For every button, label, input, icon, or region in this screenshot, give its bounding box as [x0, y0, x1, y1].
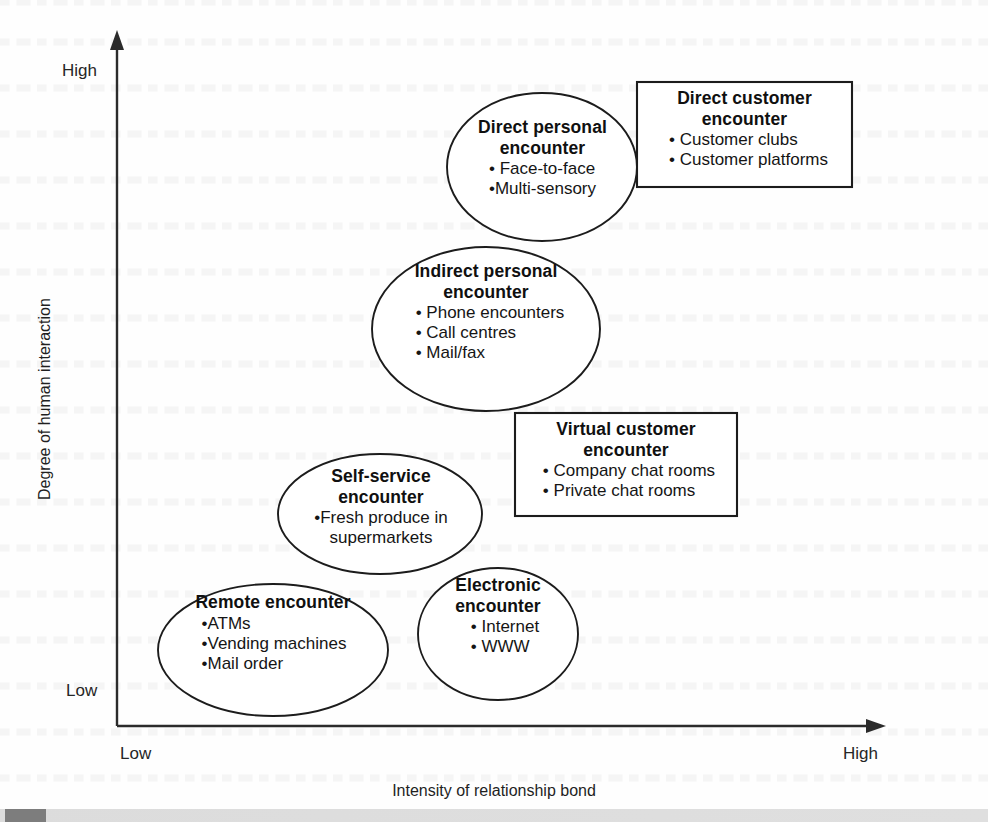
- list-item: • Private chat rooms: [543, 481, 715, 501]
- list-item: • Face-to-face: [489, 159, 596, 179]
- y-axis-title: Degree of human interaction: [36, 298, 54, 500]
- list-item-text: Private chat rooms: [554, 481, 696, 500]
- node-items: •Fresh produce in supermarkets: [288, 508, 474, 548]
- list-item: • Mail/fax: [416, 343, 565, 363]
- list-item: •Fresh produce in supermarkets: [288, 508, 474, 548]
- node-items: • Face-to-face •Multi-sensory: [489, 159, 596, 199]
- node-title: Virtual customer encounter: [519, 419, 733, 460]
- list-item: •Mail order: [202, 654, 347, 674]
- y-axis-arrowhead: [110, 30, 124, 50]
- title-line: Direct customer: [677, 88, 812, 108]
- title-line: Self-service: [331, 466, 430, 486]
- title-line: Remote encounter: [195, 592, 350, 612]
- title-line: Virtual customer: [556, 419, 695, 439]
- title-line: Indirect personal: [415, 261, 558, 281]
- node-title: Self-service encounter: [288, 466, 474, 507]
- figure-canvas: Direct personal encounter • Face-to-face…: [0, 0, 988, 822]
- list-item: • Call centres: [416, 323, 565, 343]
- node-remote-encounter: Remote encounter •ATMs •Vending machines…: [168, 592, 378, 674]
- title-line: encounter: [500, 138, 586, 158]
- node-virtual-customer-encounter: Virtual customer encounter • Company cha…: [519, 419, 733, 501]
- x-axis-arrowhead: [866, 719, 886, 733]
- list-item: •Multi-sensory: [489, 179, 596, 199]
- title-line: encounter: [702, 109, 788, 129]
- node-title: Remote encounter: [168, 592, 378, 613]
- title-line: encounter: [338, 487, 424, 507]
- list-item-text: ATMs: [208, 614, 251, 633]
- list-item-text: Internet: [482, 617, 540, 636]
- y-axis-high-label: High: [62, 61, 97, 81]
- list-item: • Customer clubs: [669, 130, 828, 150]
- list-item-text: Mail order: [208, 654, 284, 673]
- list-item: • Internet: [471, 617, 539, 637]
- list-item: • Customer platforms: [669, 150, 828, 170]
- title-line: Direct personal: [478, 117, 607, 137]
- title-line: encounter: [443, 282, 529, 302]
- list-item-text: Face-to-face: [500, 159, 595, 178]
- node-items: • Phone encounters • Call centres • Mail…: [416, 303, 565, 363]
- list-item-text: Customer clubs: [680, 130, 798, 149]
- list-item: •Vending machines: [202, 634, 347, 654]
- x-axis-low-label: Low: [120, 744, 151, 764]
- node-items: •ATMs •Vending machines •Mail order: [202, 614, 347, 674]
- list-item-text: Fresh produce in supermarkets: [320, 508, 448, 547]
- x-axis-title: Intensity of relationship bond: [0, 782, 988, 800]
- page-footer-bar: [0, 809, 988, 822]
- list-item: •ATMs: [202, 614, 347, 634]
- x-axis-high-label: High: [843, 744, 878, 764]
- node-title: Electronic encounter: [430, 575, 566, 616]
- node-direct-personal-encounter: Direct personal encounter • Face-to-face…: [455, 117, 630, 199]
- node-direct-customer-encounter: Direct customer encounter • Customer clu…: [641, 88, 848, 170]
- page-footer-tab: [5, 809, 46, 822]
- y-axis-low-label: Low: [66, 681, 97, 701]
- list-item-text: Call centres: [426, 323, 516, 342]
- list-item-text: Vending machines: [208, 634, 347, 653]
- node-title: Direct personal encounter: [455, 117, 630, 158]
- node-items: • Internet • WWW: [471, 617, 539, 657]
- list-item-text: Phone encounters: [426, 303, 564, 322]
- node-items: • Company chat rooms • Private chat room…: [543, 461, 715, 501]
- list-item-text: Customer platforms: [680, 150, 828, 169]
- node-indirect-personal-encounter: Indirect personal encounter • Phone enco…: [386, 261, 586, 363]
- list-item: • Phone encounters: [416, 303, 565, 323]
- list-item-text: Company chat rooms: [554, 461, 716, 480]
- node-title: Direct customer encounter: [641, 88, 848, 129]
- node-self-service-encounter: Self-service encounter •Fresh produce in…: [288, 466, 474, 548]
- node-title: Indirect personal encounter: [386, 261, 586, 302]
- node-electronic-encounter: Electronic encounter • Internet • WWW: [430, 575, 566, 657]
- title-line: encounter: [583, 440, 669, 460]
- node-items: • Customer clubs • Customer platforms: [669, 130, 828, 170]
- list-item-text: WWW: [482, 637, 530, 656]
- list-item-text: Mail/fax: [426, 343, 485, 362]
- list-item: • Company chat rooms: [543, 461, 715, 481]
- title-line: encounter: [455, 596, 541, 616]
- title-line: Electronic: [455, 575, 541, 595]
- list-item-text: Multi-sensory: [495, 179, 596, 198]
- list-item: • WWW: [471, 637, 539, 657]
